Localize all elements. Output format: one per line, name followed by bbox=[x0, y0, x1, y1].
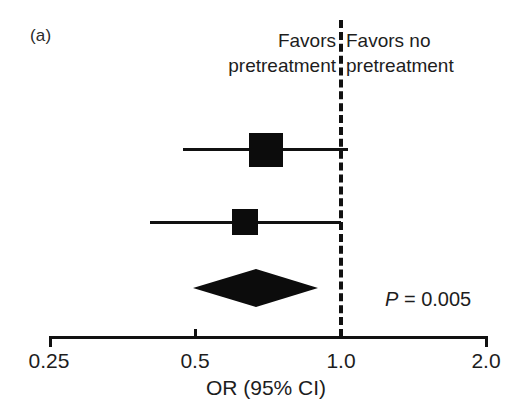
x-axis-tick-0.25 bbox=[49, 336, 52, 347]
plot-area: 0.25 0.5 1.0 2.0 OR (95% CI) P = 0.005 bbox=[0, 0, 532, 409]
forest-plot-figure: (a) Favors pretreatment Favors no pretre… bbox=[0, 0, 532, 409]
x-axis-tick-0.5 bbox=[194, 329, 197, 337]
p-value-number: = 0.005 bbox=[398, 288, 471, 310]
x-axis-tick-2.0 bbox=[485, 336, 488, 347]
x-tick-label-1: 0.5 bbox=[180, 349, 209, 373]
x-tick-label-0: 0.25 bbox=[29, 349, 70, 373]
x-tick-label-2: 1.0 bbox=[326, 349, 355, 373]
x-tick-label-3: 2.0 bbox=[471, 349, 500, 373]
p-value-annotation: P = 0.005 bbox=[385, 288, 471, 311]
x-axis-title: OR (95% CI) bbox=[0, 376, 532, 400]
x-axis-line bbox=[49, 336, 488, 339]
p-value-symbol: P bbox=[385, 288, 398, 310]
x-axis-tick-1.0 bbox=[340, 329, 343, 337]
summary-diamond bbox=[0, 0, 532, 409]
